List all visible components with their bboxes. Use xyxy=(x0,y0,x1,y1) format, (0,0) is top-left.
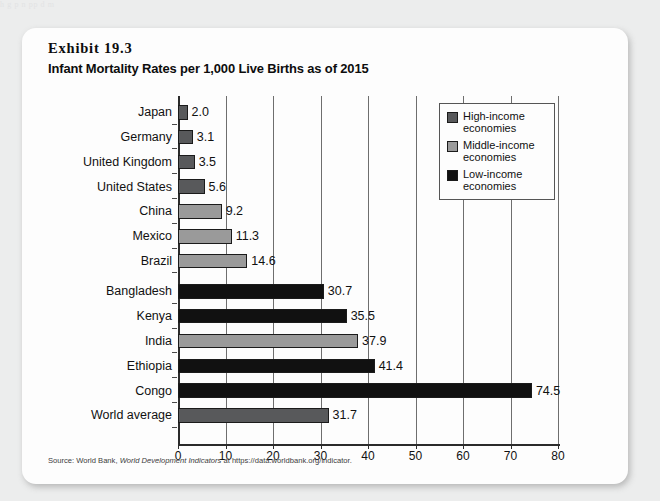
y-tick-mark xyxy=(172,272,177,273)
y-tick-mark xyxy=(172,427,177,428)
bar-world-average xyxy=(178,408,329,423)
bar-bangladesh xyxy=(178,284,324,299)
chart-plot: JapanGermanyUnited KingdomUnited StatesC… xyxy=(22,28,628,484)
bar-row: 30.7 xyxy=(22,284,628,299)
bar-value-label: 11.3 xyxy=(236,229,259,243)
exhibit-card: Exhibit 19.3 Infant Mortality Rates per … xyxy=(22,28,628,484)
x-tick-label-60: 60 xyxy=(456,449,469,463)
exhibit-card-inner: Exhibit 19.3 Infant Mortality Rates per … xyxy=(22,28,628,484)
bar-value-label: 31.7 xyxy=(333,408,357,422)
x-tick-label-50: 50 xyxy=(409,449,422,463)
bar-rows: 2.03.13.55.69.211.314.630.735.537.941.47… xyxy=(22,28,628,484)
legend-swatch-icon xyxy=(447,141,458,152)
legend-item-0: High-income economies xyxy=(447,111,547,134)
bar-brazil xyxy=(178,254,247,269)
bar-congo xyxy=(178,383,532,398)
y-tick-mark xyxy=(172,173,177,174)
y-tick-mark xyxy=(172,248,177,249)
bar-united-states xyxy=(178,179,205,194)
source-prefix: Source: World Bank, xyxy=(48,456,120,465)
bar-value-label: 41.4 xyxy=(379,359,403,373)
bar-row: 14.6 xyxy=(22,254,628,269)
bar-ethiopia xyxy=(178,359,375,374)
y-tick-mark xyxy=(172,223,177,224)
bar-united-kingdom xyxy=(178,155,195,170)
x-tick-label-40: 40 xyxy=(361,449,374,463)
bar-mexico xyxy=(178,229,232,244)
y-tick-mark xyxy=(172,124,177,125)
bar-value-label: 37.9 xyxy=(362,334,386,348)
y-tick-mark xyxy=(172,148,177,149)
bar-value-label: 30.7 xyxy=(328,284,352,298)
bar-row: 11.3 xyxy=(22,229,628,244)
bar-value-label: 3.1 xyxy=(197,130,214,144)
y-tick-mark xyxy=(172,377,177,378)
bar-value-label: 5.6 xyxy=(209,180,226,194)
y-tick-mark xyxy=(172,352,177,353)
bar-japan xyxy=(178,105,188,120)
legend-label: Middle-income economies xyxy=(463,140,547,163)
y-tick-mark xyxy=(172,303,177,304)
bar-germany xyxy=(178,130,193,145)
legend-item-2: Low-income economies xyxy=(447,169,547,192)
y-tick-mark xyxy=(172,328,177,329)
source-publication: World Development Indicators xyxy=(120,456,222,465)
legend-label: Low-income economies xyxy=(463,169,547,192)
bar-value-label: 3.5 xyxy=(199,155,216,169)
x-tick-label-80: 80 xyxy=(551,449,564,463)
bar-row: 74.5 xyxy=(22,383,628,398)
bar-value-label: 9.2 xyxy=(226,204,243,218)
bar-row: 37.9 xyxy=(22,334,628,349)
bar-india xyxy=(178,334,358,349)
page-bleed-text: h g p n pp d m xyxy=(0,0,660,16)
bar-value-label: 74.5 xyxy=(536,384,560,398)
bar-value-label: 35.5 xyxy=(351,309,375,323)
bar-china xyxy=(178,204,222,219)
y-tick-mark xyxy=(172,402,177,403)
legend-label: High-income economies xyxy=(463,111,547,134)
bar-row: 35.5 xyxy=(22,309,628,324)
x-tick-label-70: 70 xyxy=(504,449,517,463)
bar-value-label: 2.0 xyxy=(192,105,209,119)
bar-row: 31.7 xyxy=(22,408,628,423)
bar-value-label: 14.6 xyxy=(251,254,275,268)
source-suffix: at https://data.worldbank.org/indicator. xyxy=(221,456,351,465)
source-note: Source: World Bank, World Development In… xyxy=(48,456,352,465)
chart-legend: High-income economiesMiddle-income econo… xyxy=(439,103,555,200)
bar-row: 41.4 xyxy=(22,359,628,374)
bar-row: 9.2 xyxy=(22,204,628,219)
legend-swatch-icon xyxy=(447,112,458,123)
legend-swatch-icon xyxy=(447,170,458,181)
y-tick-mark xyxy=(172,198,177,199)
bar-kenya xyxy=(178,309,347,324)
legend-item-1: Middle-income economies xyxy=(447,140,547,163)
